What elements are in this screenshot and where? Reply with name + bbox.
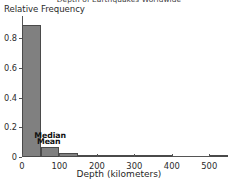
x-tick-mark [209,154,210,157]
x-tick-mark [134,154,135,157]
y-axis-label: Relative Frequency [4,4,85,14]
x-tick-mark [22,154,23,157]
y-tick-label: 0.6 [4,63,17,73]
x-axis-label: Depth (kilometers) [0,169,238,179]
y-tick-label: 0.8 [4,33,17,43]
y-tick-label: 0.2 [4,122,17,132]
histogram-bar [41,147,60,157]
stat-label-mean: Mean [37,137,60,146]
x-tick-mark [97,154,98,157]
y-tick-label: 0.4 [4,93,17,103]
plot-area: 00.20.40.60.8 MedianMean [22,16,228,157]
x-axis-ticks: 0100200300400500 [22,157,228,169]
x-tick-mark [59,154,60,157]
histogram-figure: Depth of Earthquakes Worldwide Relative … [0,0,238,183]
x-tick-mark [172,154,173,157]
y-tick-label: 0 [12,152,17,162]
